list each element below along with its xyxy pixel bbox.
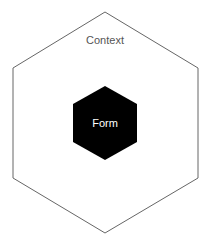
context-label: Context (86, 34, 124, 46)
context-form-diagram: Context Form (0, 0, 206, 245)
form-label: Form (92, 117, 118, 129)
